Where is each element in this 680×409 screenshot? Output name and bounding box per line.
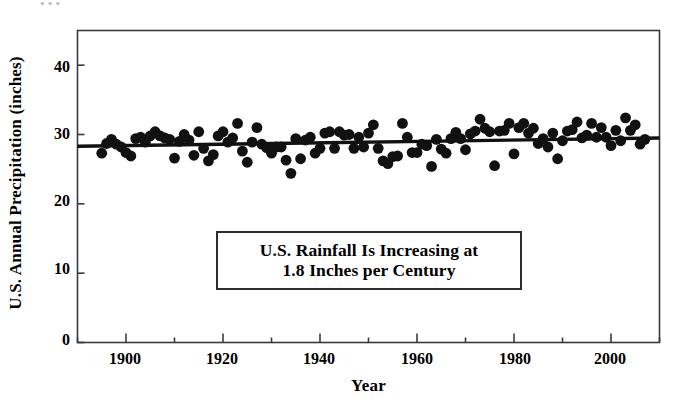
- annotation-line-2: 1.8 Inches per Century: [283, 261, 456, 281]
- plot-frame: [78, 31, 660, 343]
- annotation-line-1: U.S. Rainfall Is Increasing at: [260, 241, 479, 261]
- precipitation-scatter-figure: • • • U.S. Annual Precipitation (inches)…: [0, 0, 680, 409]
- plot-area: [0, 0, 680, 409]
- trend-annotation-box: U.S. Rainfall Is Increasing at 1.8 Inche…: [216, 231, 522, 290]
